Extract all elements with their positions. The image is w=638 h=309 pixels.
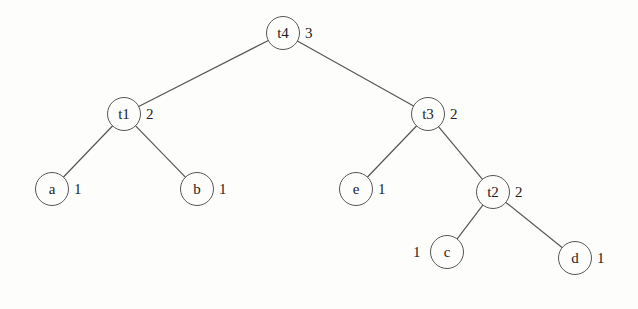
tree-node-label-t1: t1 (118, 107, 129, 122)
tree-edge-t3-t2 (439, 127, 482, 179)
tree-node-b[interactable]: b (180, 172, 214, 206)
tree-node-label-t3: t3 (422, 107, 433, 122)
tree-node-weight-e: 1 (378, 182, 386, 197)
tree-node-label-t4: t4 (277, 26, 288, 41)
tree-node-weight-t3: 2 (450, 107, 458, 122)
tree-node-label-e: e (353, 182, 359, 197)
tree-node-t4[interactable]: t4 (266, 16, 300, 50)
tree-node-label-d: d (571, 251, 578, 266)
tree-node-t3[interactable]: t3 (411, 97, 445, 131)
tree-edge-t1-b (136, 126, 185, 177)
tree-node-weight-t1: 2 (146, 107, 154, 122)
tree-edge-t1-a (64, 126, 112, 176)
tree-node-label-b: b (193, 182, 200, 197)
tree-node-label-t2: t2 (487, 185, 498, 200)
tree-node-label-c: c (444, 245, 450, 260)
tree-edge-t4-t3 (298, 41, 413, 105)
tree-diagram-canvas: t43t12t32a1b1e1t22c1d1 (0, 0, 638, 309)
tree-node-t2[interactable]: t2 (476, 175, 510, 209)
tree-node-d[interactable]: d (558, 241, 592, 275)
tree-node-weight-t2: 2 (515, 185, 523, 200)
tree-node-t1[interactable]: t1 (107, 97, 141, 131)
tree-node-a[interactable]: a (35, 172, 69, 206)
tree-node-label-a: a (49, 182, 55, 197)
tree-node-c[interactable]: c (430, 235, 464, 269)
tree-node-weight-a: 1 (74, 182, 82, 197)
tree-node-weight-b: 1 (219, 182, 227, 197)
tree-edge-t2-c (457, 205, 482, 238)
tree-node-weight-c: 1 (413, 245, 421, 260)
tree-edge-t3-e (368, 126, 416, 176)
tree-edge-t4-t1 (139, 41, 268, 107)
tree-node-weight-t4: 3 (305, 26, 313, 41)
tree-node-e[interactable]: e (339, 172, 373, 206)
tree-node-weight-d: 1 (597, 251, 605, 266)
tree-edge-t2-d (506, 203, 562, 248)
tree-edges-layer (0, 0, 638, 309)
